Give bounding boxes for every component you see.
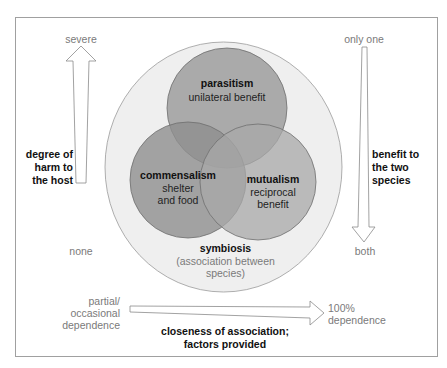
mutualism-subtitle-line: benefit [233, 198, 313, 210]
symbiosis-title: symbiosis [163, 242, 288, 255]
bottom-axis-left-label-line: dependence [54, 319, 120, 331]
right-axis-title-line: the two [372, 161, 432, 174]
mutualism-subtitle-line: reciprocal [233, 186, 313, 198]
right-axis-title-line: species [372, 174, 432, 187]
left-axis-top-label: severe [61, 33, 101, 45]
bottom-axis-left-label-line: partial/ [54, 295, 120, 307]
mutualism-title: mutualism [233, 173, 313, 186]
right-axis-title-line: benefit to [372, 148, 432, 161]
mutualism-label: mutualism reciprocal benefit [233, 173, 313, 210]
bottom-axis-title-line: factors provided [140, 338, 310, 351]
bottom-axis-left-label: partial/ occasional dependence [54, 295, 120, 331]
commensalism-subtitle-line: and food [128, 194, 228, 206]
left-axis-title-line: degree of [18, 148, 73, 161]
left-axis-title-line: harm to [18, 161, 73, 174]
symbiosis-label: symbiosis (association between species) [163, 242, 288, 279]
right-axis-top-label: only one [338, 33, 390, 45]
parasitism-label: parasitism unilateral benefit [167, 77, 287, 104]
bottom-axis-title-line: closeness of association; [140, 325, 310, 338]
bottom-axis-right-label: 100% dependence [328, 302, 398, 326]
bottom-axis-left-label-line: occasional [54, 307, 120, 319]
bottom-axis-right-label-line: dependence [328, 314, 398, 326]
right-axis-title: benefit to the two species [372, 148, 432, 187]
bottom-axis-title: closeness of association; factors provid… [140, 325, 310, 351]
commensalism-label: commensalism shelter and food [128, 169, 228, 206]
symbiosis-diagram: severe none degree of harm to the host o… [0, 0, 447, 368]
bottom-axis-right-label-line: 100% [328, 302, 398, 314]
left-axis-title: degree of harm to the host [18, 148, 73, 187]
commensalism-title: commensalism [128, 169, 228, 182]
commensalism-subtitle-line: shelter [128, 182, 228, 194]
symbiosis-subtitle-line: species) [163, 267, 288, 279]
left-axis-title-line: the host [18, 174, 73, 187]
symbiosis-subtitle-line: (association between [163, 255, 288, 267]
right-axis-bottom-label: both [345, 245, 385, 257]
parasitism-subtitle: unilateral benefit [167, 90, 287, 104]
left-axis-bottom-label: none [61, 245, 101, 257]
parasitism-title: parasitism [167, 77, 287, 90]
